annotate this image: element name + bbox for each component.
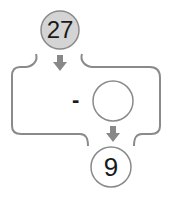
minus-operator: - bbox=[72, 88, 79, 112]
flow-diagram bbox=[0, 0, 174, 201]
start-value: 27 bbox=[41, 16, 79, 44]
result-value: 9 bbox=[91, 152, 131, 182]
arrow-down-icon bbox=[53, 55, 67, 71]
arrow-down-icon bbox=[106, 126, 120, 142]
blank-answer-circle[interactable] bbox=[93, 81, 133, 121]
